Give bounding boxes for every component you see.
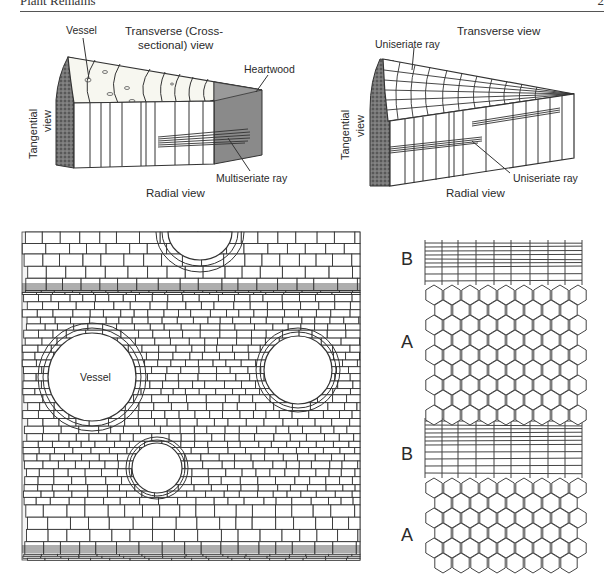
cell-wall [425,465,582,466]
cell [26,505,44,517]
cell [278,485,291,491]
cell [187,395,207,403]
cell [344,317,359,324]
cell [219,454,234,461]
cell [108,491,127,497]
cell [316,295,335,302]
cell [120,497,140,505]
cell [24,497,36,505]
cell [355,232,360,244]
cell [148,310,164,317]
cell [82,454,100,461]
cell [43,419,59,427]
cell [218,338,237,345]
cell [73,448,91,454]
label-B-upper: B [401,249,413,269]
cell [138,411,151,419]
cell [235,454,252,461]
cell [240,441,259,447]
cell [152,367,167,374]
cell [135,381,150,389]
cell [153,517,177,529]
cell [181,434,195,442]
cell [256,403,274,411]
cell [296,448,308,454]
cell [125,419,139,427]
cell [211,485,227,491]
cell [22,310,37,317]
cell [316,491,335,497]
cell [333,441,348,447]
tracheid-cell [498,405,514,425]
cell [43,434,59,442]
cell [280,254,300,266]
cell-wall [425,280,582,281]
cell [176,517,197,529]
cell-wall [425,432,582,433]
cell [300,295,316,302]
cell [326,244,345,255]
cell [236,374,250,381]
cell [24,295,39,302]
cell [208,448,228,454]
cell [344,244,360,255]
cell [246,389,260,395]
cell [241,485,258,491]
cell [198,374,216,381]
cell [217,345,233,352]
cell [313,505,331,517]
cell [55,317,70,324]
cell [179,381,193,389]
cell [319,302,335,310]
tracheid-grid [425,240,586,573]
cell [81,441,95,447]
vessel-small [132,443,182,493]
cell [235,352,249,360]
cell [332,419,350,427]
cell-wall [425,254,582,255]
cell [250,295,263,302]
cell [59,302,77,310]
radial-face [74,101,214,168]
cell [214,302,234,310]
cell [133,517,152,529]
cell [165,411,179,419]
cell [305,266,329,278]
cell [85,497,104,505]
cell [125,505,143,517]
cell [72,477,86,485]
cell [139,403,154,411]
cell [257,426,276,433]
cell [85,505,108,517]
cell [176,345,192,352]
label-uniseriate-ray-bottom: Uniseriate ray [513,172,579,184]
cell [225,381,242,389]
cell [70,244,87,255]
cell [270,469,285,477]
cell [209,558,232,560]
cell [195,441,208,447]
cell [71,517,89,529]
cell [110,558,130,560]
label-tangential-view: view [41,110,53,132]
cell [107,485,119,491]
cell [334,232,355,244]
tracheid-cell [516,405,532,425]
cell [91,558,110,560]
cell [205,381,225,389]
cell [179,411,195,419]
cell [285,310,299,317]
cell [61,426,79,433]
cell [25,232,42,244]
cell [216,374,235,381]
cell [326,485,343,491]
cell [306,434,324,442]
cell [69,497,85,505]
cell [174,529,197,541]
softwood-cross-section: B A B A [401,240,586,573]
cell [22,360,36,367]
cell [294,517,316,529]
cell [54,469,68,477]
cell [89,461,105,469]
cell [164,310,179,317]
